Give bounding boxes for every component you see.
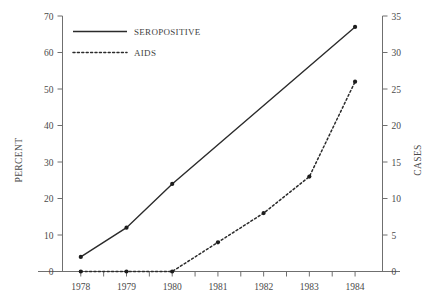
legend-label-aids: AIDS [134, 48, 156, 58]
left-tick-label: 10 [44, 231, 54, 241]
right-tick-label: 25 [392, 85, 402, 95]
left-tick-label: 0 [49, 267, 54, 277]
data-point-aids-1983 [307, 175, 311, 179]
x-tick-label: 1983 [300, 282, 319, 292]
legend-label-seropositive: SEROPOSITIVE [134, 27, 201, 37]
data-point-aids-1982 [262, 211, 266, 215]
data-point-seropositive-1984 [353, 25, 357, 29]
right-tick-label: 35 [392, 12, 402, 22]
left-tick-label: 40 [44, 121, 54, 131]
left-tick-label: 70 [44, 12, 54, 22]
right-tick-label: 15 [392, 158, 402, 168]
data-point-seropositive-1978 [79, 255, 83, 259]
right-tick-label: 20 [392, 121, 402, 131]
chart-background [0, 0, 437, 303]
left-tick-label: 60 [44, 48, 54, 58]
data-point-aids-1984 [353, 80, 357, 84]
x-tick-label: 1978 [71, 282, 90, 292]
data-point-seropositive-1979 [124, 226, 128, 230]
right-tick-label: 5 [392, 231, 397, 241]
x-tick-label: 1979 [117, 282, 136, 292]
left-tick-label: 20 [44, 194, 54, 204]
data-point-aids-1978 [79, 269, 83, 273]
y2-axis-title: CASES [413, 144, 423, 176]
x-tick-label: 1982 [254, 282, 273, 292]
x-tick-label: 1980 [163, 282, 182, 292]
data-point-aids-1979 [124, 269, 128, 273]
y-axis-title: PERCENT [14, 137, 24, 182]
right-tick-label: 10 [392, 194, 402, 204]
x-tick-label: 1984 [346, 282, 365, 292]
left-tick-label: 50 [44, 85, 54, 95]
chart-container: 010203040506070 05101520253035 197819791… [0, 0, 437, 303]
left-tick-label: 30 [44, 158, 54, 168]
data-point-aids-1981 [216, 240, 220, 244]
x-tick-label: 1981 [208, 282, 227, 292]
data-point-aids-1980 [170, 269, 174, 273]
right-tick-label: 30 [392, 48, 402, 58]
dual-axis-line-chart: 010203040506070 05101520253035 197819791… [0, 0, 437, 303]
data-point-seropositive-1980 [170, 182, 174, 186]
right-tick-label: 0 [392, 267, 397, 277]
